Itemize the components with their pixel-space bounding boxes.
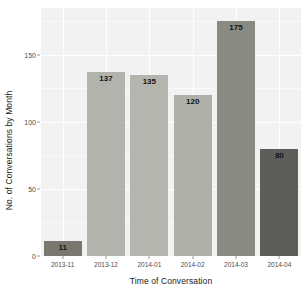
x-tick-mark <box>236 256 237 259</box>
y-axis-ticks: 050100150 <box>18 8 40 256</box>
bar-value-label: 137 <box>99 74 112 83</box>
x-tick-mark <box>106 256 107 259</box>
y-tick-mark <box>37 54 40 55</box>
y-tick-label: 50 <box>28 185 36 192</box>
bar <box>217 21 255 256</box>
x-axis-ticks: 2013-112013-122014-012014-022014-032014-… <box>41 256 301 274</box>
bar-value-label: 120 <box>186 97 199 106</box>
x-tick-mark <box>279 256 280 259</box>
x-tick-label: 2014-01 <box>137 261 161 268</box>
x-tick-label: 2013-11 <box>51 261 74 268</box>
y-axis-title: No. of Conversations by Month <box>0 0 18 301</box>
bar-value-label: 80 <box>275 151 284 160</box>
y-tick-label: 0 <box>32 253 36 260</box>
y-tick-mark <box>37 188 40 189</box>
bar-value-label: 135 <box>143 77 156 86</box>
x-tick-label: 2013-12 <box>94 261 118 268</box>
plot-panel: 1113713512017580 <box>41 8 301 256</box>
x-tick-mark <box>62 256 63 259</box>
bar-value-label: 11 <box>58 243 66 252</box>
y-tick-mark <box>37 121 40 122</box>
x-tick-mark <box>192 256 193 259</box>
y-tick-mark <box>37 256 40 257</box>
bar-chart: No. of Conversations by Month 050100150 … <box>0 0 306 301</box>
bar <box>174 95 212 256</box>
y-tick-label: 100 <box>24 118 36 125</box>
x-tick-label: 2014-04 <box>267 261 291 268</box>
bar <box>87 72 125 256</box>
x-tick-label: 2014-02 <box>181 261 205 268</box>
bar <box>130 75 168 256</box>
bars-layer: 1113713512017580 <box>41 8 301 256</box>
bar-value-label: 175 <box>229 23 242 32</box>
x-tick-label: 2014-03 <box>224 261 248 268</box>
y-tick-label: 150 <box>24 51 36 58</box>
bar <box>260 149 298 256</box>
x-axis-title: Time of Conversation <box>41 276 301 286</box>
x-tick-mark <box>149 256 150 259</box>
